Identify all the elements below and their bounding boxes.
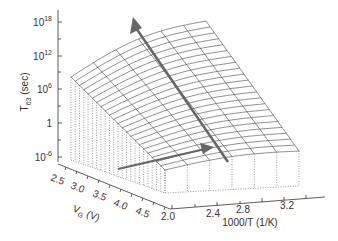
vg-tick-4.0: 4.0 [112, 197, 129, 213]
vertical-trend-arrowhead-icon [130, 17, 142, 34]
z-tick-1: 1 [46, 118, 52, 129]
vg-tick-3.5: 3.5 [91, 188, 108, 204]
vg-tick-3.0: 3.0 [69, 180, 86, 196]
vg-axis-title: VG (V) [71, 203, 102, 226]
z-axis-title: T63 (sec) [19, 73, 32, 112]
vg-tick-2.5: 2.5 [49, 172, 66, 188]
invT-tick-3.2: 3.2 [280, 200, 294, 211]
z-tick-1e12: 1012 [33, 49, 52, 62]
wireframe-surface [71, 21, 299, 170]
invT-tick-2.0: 2.0 [161, 211, 175, 222]
invT-tick-2.8: 2.8 [236, 204, 250, 215]
surface-chart: 1018 1012 106 1 10-6 T63 (sec) 2.5 3.0 3… [0, 0, 338, 241]
z-tick-1e-6: 10-6 [35, 150, 52, 163]
vg-trend-arrowhead-icon [200, 143, 214, 154]
invT-axis-title: 1000/T (1/K) [222, 217, 277, 228]
vertical-trend-arrow-shaft [136, 28, 228, 162]
vg-tick-4.5: 4.5 [134, 205, 151, 221]
z-axis [58, 10, 62, 162]
z-tick-1e6: 106 [37, 82, 52, 95]
z-tick-1e18: 1018 [33, 15, 52, 28]
invT-tick-2.4: 2.4 [206, 208, 220, 219]
z-tick-labels: 1018 1012 106 1 10-6 [33, 15, 52, 163]
